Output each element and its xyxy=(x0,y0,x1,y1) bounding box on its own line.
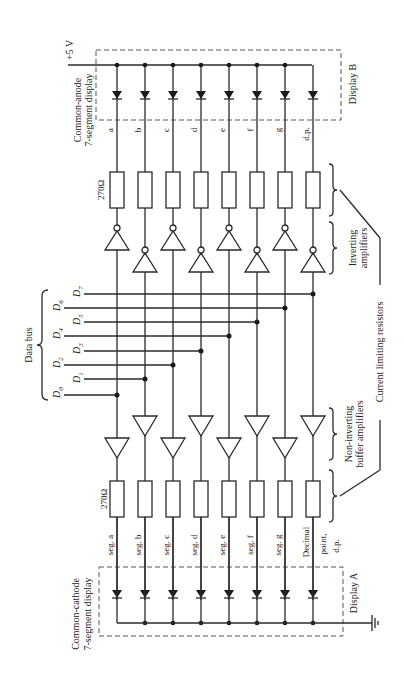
current-limiting-label: Current limiting resistors xyxy=(374,302,385,403)
bus-label-d2: D2 xyxy=(51,357,65,369)
display-b-box xyxy=(96,50,341,120)
segment-label-a-b: seg. b xyxy=(133,534,143,555)
non-inverting-buffers xyxy=(105,416,325,458)
resistor-value-top: 270Ω xyxy=(96,180,106,201)
segment-label-a-dp-line1: Decimal xyxy=(301,526,311,557)
bus-label-d5: D5 xyxy=(71,314,85,326)
segment-label-a-a: seg. a xyxy=(105,535,115,556)
bus-label-d1: D1 xyxy=(71,372,85,384)
bus-label-d6: D6 xyxy=(51,300,65,312)
segment-label-a-d: seg. d xyxy=(189,534,199,555)
display-a xyxy=(99,481,378,636)
segment-label-b-f: f xyxy=(245,129,255,132)
display-a-name: Display A xyxy=(348,572,359,613)
display-a-type-line2: 7-segment display xyxy=(82,577,93,650)
display-a-diodes xyxy=(112,517,318,625)
display-b-resistors xyxy=(110,172,320,208)
display-a-box xyxy=(99,567,343,636)
segment-label-b-e: e xyxy=(217,128,227,132)
bus-label-d7: D7 xyxy=(71,286,85,298)
non-inverting-label-line1: Non-inverting xyxy=(343,406,354,463)
resistor-value-bottom: 270Ω xyxy=(99,489,109,510)
data-bus-brace xyxy=(37,290,48,400)
segment-label-b-c: c xyxy=(161,128,171,132)
bus-label-d3: D3 xyxy=(71,343,85,355)
display-b-diodes xyxy=(112,63,318,175)
supply-label: +5 V xyxy=(64,39,75,60)
bus-label-d0: D0 xyxy=(51,387,65,399)
non-inverting-label-line2: buffer amplifiers xyxy=(354,400,365,467)
inverting-label-line2: amplifiers xyxy=(358,228,369,269)
segment-label-b-g: g xyxy=(273,127,283,132)
display-b-type-line1: Common-anode xyxy=(72,77,83,142)
segment-label-a-dp-line3: d.p. xyxy=(331,539,341,553)
segment-label-a-f: seg. f xyxy=(245,535,255,555)
segment-label-b-b: b xyxy=(133,127,143,132)
display-b-type-line2: 7-segment display xyxy=(83,73,94,146)
segment-label-b-a: a xyxy=(105,128,115,132)
display-a-type-line1: Common-cathode xyxy=(70,578,81,650)
inverting-amplifiers xyxy=(105,225,325,272)
segment-label-a-dp-line2: point, xyxy=(318,534,328,555)
segment-label-b-dp: d.p. xyxy=(301,127,311,141)
bus-label-d4: D4 xyxy=(51,328,65,340)
display-b-name: Display B xyxy=(347,64,358,105)
segment-label-b-d: d xyxy=(189,127,199,132)
inverting-label-line1: Inverting xyxy=(347,230,358,267)
ground-icon xyxy=(372,615,378,631)
segment-label-a-e: seg. e xyxy=(217,535,227,556)
segment-label-a-g: seg. g xyxy=(273,534,283,555)
leader-bottom xyxy=(340,470,380,496)
data-bus-label: Data bus xyxy=(23,327,34,362)
display-a-resistors xyxy=(110,481,320,517)
segment-label-a-c: seg. c xyxy=(161,535,171,556)
circuit-diagram: +5 V Common-anode 7-segment display Disp… xyxy=(0,0,404,675)
